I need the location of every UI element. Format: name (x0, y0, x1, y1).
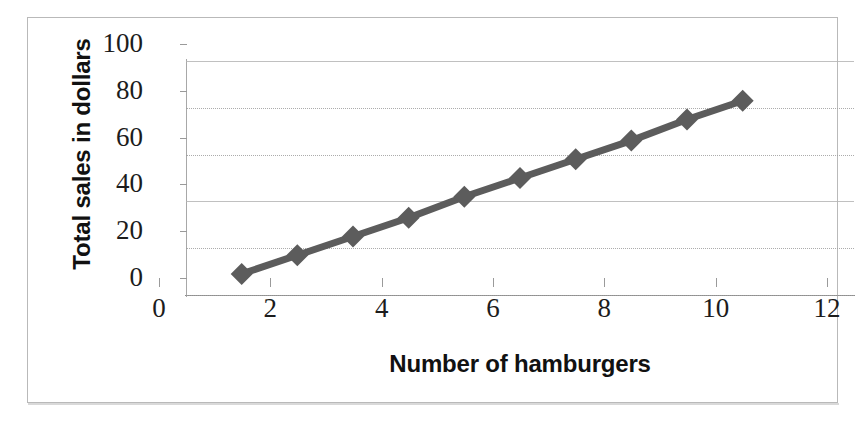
y-tick-label-100: 100 (103, 30, 144, 57)
data-point-4 (398, 207, 420, 229)
x-tick-0 (159, 278, 160, 287)
data-point-8 (620, 130, 642, 152)
y-tick-label-80: 80 (116, 77, 143, 104)
plot-area (186, 61, 854, 295)
series-total-sales (186, 61, 854, 295)
x-tick-label-12: 12 (787, 295, 859, 322)
y-tick-label-60: 60 (116, 124, 143, 151)
y-tick-label-20: 20 (116, 217, 143, 244)
x-axis-title: Number of hamburgers (186, 350, 854, 378)
data-point-5 (453, 186, 475, 208)
data-point-3 (342, 226, 364, 248)
chart-frame: Total sales in dollars Number of hamburg… (27, 17, 838, 403)
y-tick-label-0: 0 (130, 264, 144, 291)
x-tick-label-6: 6 (453, 295, 533, 322)
data-point-10 (732, 90, 754, 112)
y-axis-title: Total sales in dollars (68, 4, 96, 304)
y-tick-label-40: 40 (116, 170, 143, 197)
data-point-2 (286, 244, 308, 266)
gridline-y-0 (186, 295, 854, 296)
clipped-caption-artifact: Hamburger Sales at the Diner (330, 0, 800, 5)
x-tick-label-0: 0 (119, 295, 199, 322)
y-tick-100 (180, 44, 187, 45)
series-line (242, 101, 743, 274)
data-point-6 (509, 167, 531, 189)
x-tick-label-10: 10 (676, 295, 756, 322)
x-tick-label-8: 8 (564, 295, 644, 322)
data-point-1 (231, 263, 253, 285)
data-point-9 (676, 109, 698, 131)
x-tick-label-4: 4 (342, 295, 422, 322)
x-tick-label-2: 2 (230, 295, 310, 322)
data-point-7 (565, 148, 587, 170)
